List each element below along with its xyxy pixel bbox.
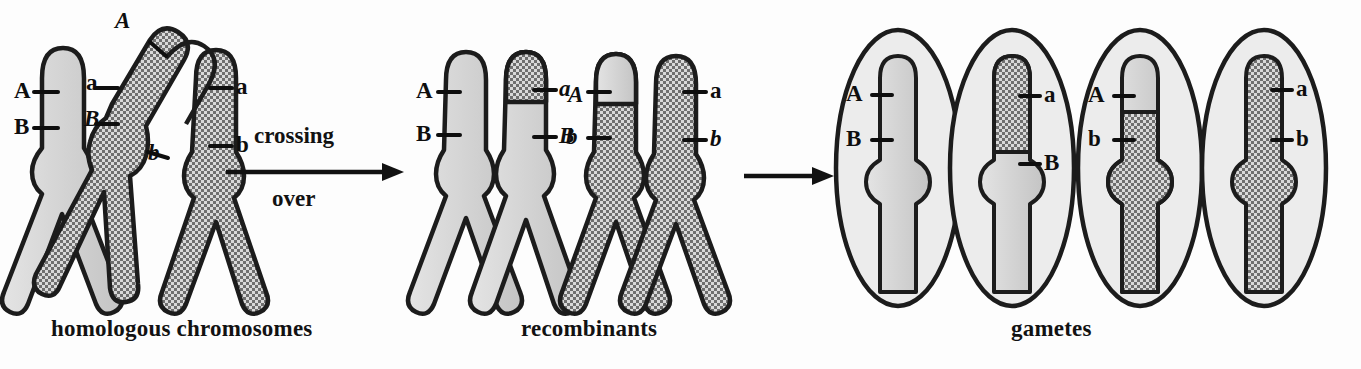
allele-label-b-recombinant-right-lower: b — [710, 126, 722, 152]
crossing-over-diagram — [0, 0, 1361, 369]
allele-label-gamete2-a: a — [1044, 82, 1056, 108]
allele-label-B-maternal-inner: B — [84, 106, 99, 132]
allele-label-gamete4-b: b — [1296, 126, 1309, 152]
exchanged-segment-left — [506, 52, 546, 102]
gamete-cell-4 — [1202, 30, 1326, 306]
allele-label-gamete2-B: B — [1044, 150, 1059, 176]
crossing-over-label-line2: over — [272, 186, 315, 212]
allele-label-b-paternal: b — [236, 132, 249, 158]
figure-canvas: A B a B A b a b A B a B A b a b A B a B … — [0, 0, 1361, 369]
caption-homologous-chromosomes: homologous chromosomes — [51, 316, 312, 342]
allele-label-b-paternal-inner: b — [148, 140, 160, 166]
panel-gametes — [836, 30, 1326, 306]
allele-label-gamete4-a: a — [1296, 76, 1308, 102]
caption-gametes: gametes — [1011, 316, 1092, 342]
allele-label-A-maternal: A — [14, 78, 31, 104]
crossing-over-label-line1: crossing — [254, 123, 334, 149]
allele-label-a-paternal: a — [236, 74, 248, 100]
allele-label-A-recombinant-right: A — [568, 82, 583, 108]
gamete-cell-1 — [836, 30, 960, 306]
allele-label-A-recombinant-left: A — [416, 78, 433, 104]
allele-label-b-recombinant-right: b — [566, 124, 578, 150]
allele-label-gamete1-B: B — [846, 126, 861, 152]
process-arrow-crossing-over — [226, 163, 404, 181]
process-arrow-to-gametes — [744, 167, 834, 185]
allele-label-A-paternal-top: A — [115, 8, 130, 34]
allele-label-a-maternal-inner: a — [86, 70, 98, 96]
allele-label-gamete3-A: A — [1088, 82, 1105, 108]
allele-label-a-recombinant-right: a — [710, 78, 722, 104]
caption-recombinants: recombinants — [521, 316, 657, 342]
allele-label-gamete1-A: A — [846, 81, 863, 107]
exchanged-segment-right — [596, 54, 636, 104]
allele-label-B-maternal: B — [14, 114, 29, 140]
gamete-cell-3 — [1078, 30, 1202, 306]
allele-label-B-recombinant-left: B — [416, 121, 431, 147]
allele-label-gamete3-b: b — [1088, 126, 1101, 152]
